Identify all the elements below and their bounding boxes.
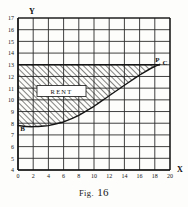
y-tick-label: 17: [8, 15, 14, 21]
x-tick-label: 2: [32, 173, 35, 179]
y-tick-labels: 17 16 15 14 13 12 11 10 9 8 7 6 5 4: [8, 15, 14, 173]
graph-canvas: 0 2 4 6 8 10 12 14 16 18 20 17 16 15 14 …: [0, 0, 188, 207]
y-tick-label: 13: [8, 62, 14, 68]
y-tick-label: 9: [11, 109, 14, 115]
x-tick-label: 10: [91, 173, 97, 179]
y-tick-label: 15: [8, 39, 14, 45]
x-tick-label: 6: [62, 173, 65, 179]
x-axis-letter: X: [177, 165, 183, 174]
y-tick-label: 11: [8, 86, 14, 92]
y-tick-label: 12: [8, 74, 14, 80]
rent-label-group: RENT: [37, 86, 86, 97]
y-tick-label: 10: [8, 97, 14, 103]
figure-caption-prefix: Fig.: [79, 188, 94, 198]
y-tick-label: 5: [11, 156, 14, 162]
x-tick-label: 16: [137, 173, 143, 179]
x-tick-label: 4: [47, 173, 50, 179]
point-label-b: B: [20, 125, 25, 133]
figure-container: 0 2 4 6 8 10 12 14 16 18 20 17 16 15 14 …: [0, 0, 188, 207]
y-tick-label: 6: [11, 144, 14, 150]
y-tick-label: 16: [8, 27, 14, 33]
figure-caption-number: 16: [97, 186, 109, 198]
y-axis-letter: Y: [29, 7, 35, 16]
point-label-p: P: [155, 56, 160, 64]
x-tick-label: 20: [167, 173, 173, 179]
rent-label-text: RENT: [51, 88, 73, 95]
y-tick-label: 8: [11, 121, 14, 127]
x-tick-label: 14: [121, 173, 127, 179]
x-tick-label: 12: [106, 173, 112, 179]
y-tick-label: 7: [11, 132, 14, 138]
figure-caption: Fig. 16: [0, 186, 188, 198]
x-tick-labels: 0 2 4 6 8 10 12 14 16 18 20: [17, 173, 174, 179]
y-tick-label: 4: [11, 167, 14, 173]
point-label-c: C: [162, 59, 167, 67]
x-tick-label: 18: [152, 173, 158, 179]
x-tick-label: 0: [17, 173, 20, 179]
y-tick-label: 14: [8, 50, 14, 56]
x-tick-label: 8: [77, 173, 80, 179]
